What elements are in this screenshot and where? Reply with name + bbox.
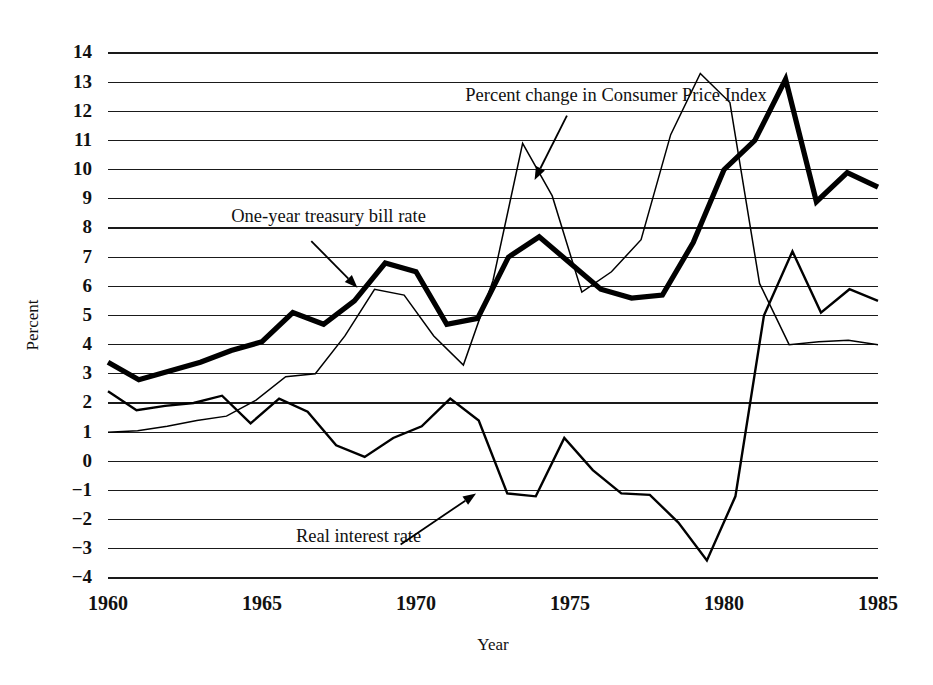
y-tick-label: 12 [73,100,92,121]
y-tick-label: −3 [72,537,92,558]
y-tick-label: 5 [83,304,93,325]
y-tick-label: −1 [72,479,92,500]
x-tick-label: 1975 [550,592,590,614]
data-series-group [108,73,878,560]
x-tick-label: 1980 [704,592,744,614]
x-axis-title: Year [477,635,509,654]
series-line-tbill [108,79,878,379]
y-tick-label: 3 [83,362,93,383]
real-rate-annotation-arrow-shaft [401,501,466,545]
cpi-annotation-arrow-shaft [540,116,566,169]
y-tick-label: 8 [83,216,93,237]
y-tick-label: 6 [83,275,93,296]
y-tick-label: 7 [83,246,93,267]
x-tick-label: 1970 [396,592,436,614]
interest-rate-line-chart: −4−3−2−101234567891011121314 19601965197… [0,0,933,685]
x-tick-label: 1960 [88,592,128,614]
y-axis-title: Percent [23,299,42,350]
real-rate-annotation-arrow-head [462,493,476,504]
gridlines [108,53,878,578]
y-tick-label: 2 [83,391,93,412]
y-tick-label: 0 [83,450,93,471]
y-tick-label: −2 [72,508,92,529]
cpi-annotation-text: Percent change in Consumer Price Index [465,85,767,105]
y-tick-label: 13 [73,71,92,92]
y-tick-label: 11 [74,129,92,150]
y-tick-label: 9 [83,187,93,208]
x-tick-label: 1965 [242,592,282,614]
tbill-annotation-arrow-shaft [311,241,348,278]
tbill-annotation-text: One-year treasury bill rate [231,206,426,226]
series-line-real [108,251,878,560]
y-tick-label: 14 [73,41,93,62]
y-tick-label: −4 [72,566,93,587]
x-axis-tick-labels: 196019651970197519801985 [88,592,898,614]
y-tick-label: 1 [83,421,93,442]
y-axis-tick-labels: −4−3−2−101234567891011121314 [72,41,93,587]
chart-figure: −4−3−2−101234567891011121314 19601965197… [0,0,933,685]
y-tick-label: 10 [73,158,92,179]
cpi-annotation-arrow-head [535,166,545,180]
x-tick-label: 1985 [858,592,898,614]
y-tick-label: 4 [83,333,93,354]
